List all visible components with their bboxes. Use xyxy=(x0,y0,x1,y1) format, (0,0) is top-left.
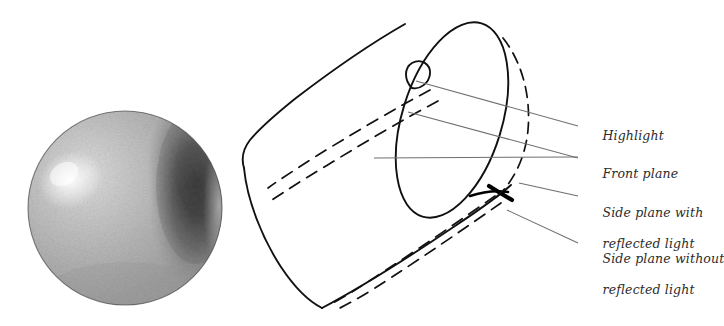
cylinder-dashed-guide-upper-a xyxy=(268,90,430,188)
leader-side-with xyxy=(519,183,578,196)
label-side-without-line-1: reflected light xyxy=(603,282,695,297)
cylinder-ellipse-dashed-guide xyxy=(492,38,529,201)
label-side-without-line-0: Side plane without xyxy=(603,251,724,266)
leader-highlight xyxy=(416,81,578,126)
cylinder-top-contour xyxy=(243,24,405,168)
cylinder-bottom-contour xyxy=(322,185,511,308)
cylinder-dashed-guide-lower-b xyxy=(340,203,501,308)
label-highlight-line-0: Highlight xyxy=(603,128,664,143)
label-side-plane-without-reflected-light: Side plane without reflected light xyxy=(586,235,724,313)
label-front-plane-line-0: Front plane xyxy=(603,166,679,181)
sphere-reflected-light xyxy=(203,143,235,267)
shaded-sphere xyxy=(28,89,261,326)
leader-front-plane xyxy=(374,157,578,158)
cylinder-far-cap xyxy=(244,168,322,308)
cylinder-dashed-guide-upper-b xyxy=(272,101,438,200)
label-side-with-line-0: Side plane with xyxy=(603,205,704,220)
leader-side-without xyxy=(507,210,578,243)
